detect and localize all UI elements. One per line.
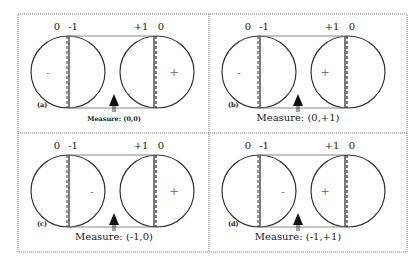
left-sign: - (237, 67, 241, 78)
right-zero-label: 0 (349, 140, 355, 151)
right-inner-label: +1 (134, 21, 149, 32)
left-sign: - (46, 67, 50, 78)
panel-label: (d) (228, 220, 239, 228)
panel-b: 0-1+10-+(b)Measure: (0,+1) (222, 21, 385, 123)
left-zero-label: 0 (245, 140, 251, 151)
right-inner-label: +1 (134, 140, 149, 151)
right-sign: + (320, 185, 329, 198)
measurement-box (69, 36, 154, 108)
right-circle (120, 36, 194, 108)
left-inner-label: -1 (259, 140, 269, 151)
left-inner-label: -1 (68, 21, 78, 32)
left-circle (222, 155, 296, 227)
left-sign: - (281, 186, 285, 197)
measurement-diagram: 0-1+10-+(a)Measure: (0,0)0-1+10-+(b)Meas… (0, 0, 419, 265)
panel-label: (a) (37, 101, 47, 109)
right-inner-label: +1 (325, 140, 340, 151)
arrow-icon (293, 94, 303, 106)
measure-label: Measure: (-1,+1) (255, 231, 342, 242)
right-zero-label: 0 (158, 21, 164, 32)
panel-a: 0-1+10-+(a)Measure: (0,0) (31, 21, 194, 123)
panel-label: (c) (37, 220, 47, 228)
panels: 0-1+10-+(a)Measure: (0,0)0-1+10-+(b)Meas… (31, 21, 385, 242)
left-circle (222, 36, 296, 108)
right-sign: + (169, 66, 178, 79)
left-circle (31, 155, 105, 227)
right-zero-label: 0 (349, 21, 355, 32)
diagram-frame (18, 14, 407, 252)
measure-label: Measure: (0,+1) (256, 112, 339, 123)
right-sign: + (169, 185, 178, 198)
measure-label: Measure: (-1,0) (75, 231, 153, 242)
arrow-icon (293, 213, 303, 225)
measurement-box (260, 36, 345, 108)
right-inner-label: +1 (325, 21, 340, 32)
measurement-box (260, 155, 345, 227)
panel-c: 0-1+10-+(c)Measure: (-1,0) (31, 140, 194, 242)
left-circle (31, 36, 105, 108)
left-sign: - (90, 186, 94, 197)
left-zero-label: 0 (245, 21, 251, 32)
left-zero-label: 0 (54, 140, 60, 151)
panel-d: 0-1+10-+(d)Measure: (-1,+1) (222, 140, 385, 242)
arrow-icon (109, 94, 119, 106)
right-zero-label: 0 (158, 140, 164, 151)
measurement-box (69, 155, 154, 227)
right-circle (120, 155, 194, 227)
arrow-icon (109, 213, 119, 225)
left-inner-label: -1 (68, 140, 78, 151)
right-sign: + (320, 66, 329, 79)
left-inner-label: -1 (259, 21, 269, 32)
measure-label: Measure: (0,0) (87, 115, 141, 123)
left-zero-label: 0 (54, 21, 60, 32)
panel-label: (b) (228, 101, 239, 109)
